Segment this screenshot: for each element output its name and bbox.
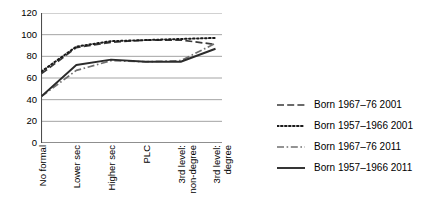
legend-line-swatch <box>277 163 305 173</box>
legend-item[interactable]: Born 1957–1966 2011 <box>277 157 427 178</box>
legend-label: Born 1957–1966 2011 <box>314 163 412 173</box>
legend-item[interactable]: Born 1957–1966 2001 <box>277 115 427 136</box>
y-axis-tick-label: 120 <box>3 8 37 18</box>
x-axis-tick-label: Higher sec <box>107 145 118 215</box>
y-axis-tick-label: 0 <box>3 138 37 148</box>
y-axis-tick-label: 40 <box>3 95 37 105</box>
line-chart-figure: 120100806040200 No formalLower secHigher… <box>0 0 427 218</box>
y-axis-tick-labels: 120100806040200 <box>0 0 37 218</box>
plot-svg <box>41 13 222 143</box>
legend-item[interactable]: Born 1967–76 2001 <box>277 94 427 115</box>
x-axis-tick-labels: No formalLower secHigher secPLC3rd level… <box>41 147 222 218</box>
x-axis-tick-label: 3rd level: degree <box>212 145 233 215</box>
series-line <box>42 43 216 96</box>
y-axis-tick-label: 60 <box>3 73 37 83</box>
y-axis-tick-label: 100 <box>3 30 37 40</box>
chart-legend: Born 1967–76 2001Born 1957–1966 2001Born… <box>277 94 427 178</box>
x-axis-tick-label: PLC <box>142 145 153 215</box>
x-axis-tick-label: 3rd level: non-degree <box>177 145 198 215</box>
plot-area <box>41 13 222 143</box>
x-axis-tick-label: No formal <box>38 145 49 215</box>
legend-line-swatch <box>277 100 305 110</box>
legend-item[interactable]: Born 1967–76 2011 <box>277 136 427 157</box>
legend-line-swatch <box>277 142 305 152</box>
y-axis-tick-label: 20 <box>3 116 37 126</box>
legend-label: Born 1967–76 2001 <box>314 100 402 110</box>
x-axis-tick-label: Lower sec <box>72 145 83 215</box>
legend-line-swatch <box>277 121 305 131</box>
legend-label: Born 1967–76 2011 <box>314 142 401 152</box>
y-axis-tick-label: 80 <box>3 51 37 61</box>
legend-label: Born 1957–1966 2001 <box>314 121 413 131</box>
